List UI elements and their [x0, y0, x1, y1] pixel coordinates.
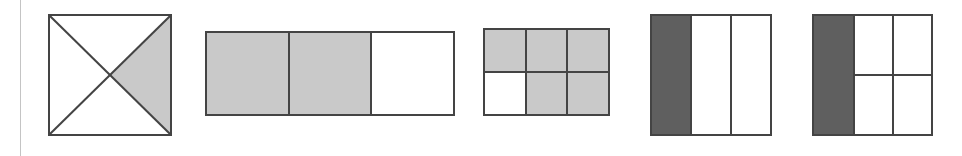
cell-1-shaded [207, 33, 288, 114]
margin-rule [20, 0, 21, 156]
left-band-shaded [814, 16, 853, 134]
cell-r1c1-shaded [485, 30, 525, 71]
cell-r1c1-unshaded [855, 16, 892, 74]
cell-r1c3-shaded [568, 30, 608, 71]
figure-square-thirds-columns [650, 14, 772, 136]
cell-2-unshaded [692, 16, 730, 134]
diagonals-svg [50, 16, 170, 134]
cell-r2c1-unshaded [855, 76, 892, 134]
cell-r1c2-shaded [527, 30, 567, 71]
worksheet-canvas [0, 0, 962, 156]
cell-3-unshaded [732, 16, 770, 134]
figure-rectangle-six-cell-grid [483, 28, 610, 116]
cell-r2c1-unshaded [485, 73, 525, 114]
figure-rectangle-thirds-columns [205, 31, 455, 116]
cell-r2c2-unshaded [894, 76, 931, 134]
cell-2-shaded [290, 33, 371, 114]
cell-r2c2-shaded [527, 73, 567, 114]
cell-1-shaded [652, 16, 690, 134]
cell-3-unshaded [372, 33, 453, 114]
figure-square-with-diagonals [48, 14, 172, 136]
cell-r1c2-unshaded [894, 16, 931, 74]
shaded-right-triangle [110, 16, 170, 134]
cell-r2c3-shaded [568, 73, 608, 114]
right-quarter-block [855, 16, 931, 134]
figure-square-third-band-with-quarters [812, 14, 933, 136]
